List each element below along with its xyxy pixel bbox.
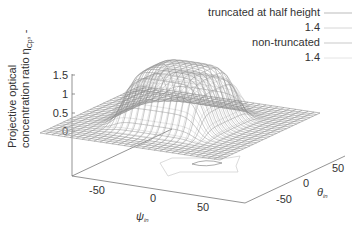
legend: truncated at half height 1.4 non-truncat… [208,6,352,63]
z-tick-1: 1 [62,88,68,100]
base-contours [160,156,240,176]
legend-label-0: truncated at half height [208,6,320,18]
z-axis-label-line1: Projective optical [6,65,18,148]
z-axis-label: Projective optical concentration ratio η… [6,29,34,148]
x-axis-label-sub: in [144,217,149,223]
z-axis-label-line2: concentration ratio ηCp, - [19,29,34,148]
z-tick-0: 1.5 [53,69,68,81]
y-axis-label: θin [317,186,328,199]
y-axis-label-sub: in [323,193,328,199]
legend-label-3: 1.4 [305,51,320,63]
x-tick-2: 50 [197,201,209,213]
y-tick-2: 50 [332,162,344,174]
surface-plot: truncated at half height 1.4 non-truncat… [0,0,359,226]
z-tick-2: 0.5 [53,107,68,119]
y-tick-0: -50 [276,193,292,205]
base-plane [72,129,345,203]
x-axis: -50 0 50 ψin [89,184,209,223]
z-axis-label-tail: , - [19,29,31,39]
x-tick-0: -50 [89,184,105,196]
y-tick-1: 0 [303,177,309,189]
x-axis-label: ψin [136,210,149,223]
legend-label-1: 1.4 [305,21,320,33]
z-axis-label-line2-text: concentration ratio η [19,48,31,148]
z-axis-label-sub: Cp [26,39,34,48]
legend-label-2: non-truncated [252,36,320,48]
z-axis: 1.5 1 0.5 0 [53,69,75,176]
x-axis-label-text: ψ [136,210,144,222]
wireframe-surface [40,60,320,160]
x-tick-1: 0 [150,192,156,204]
